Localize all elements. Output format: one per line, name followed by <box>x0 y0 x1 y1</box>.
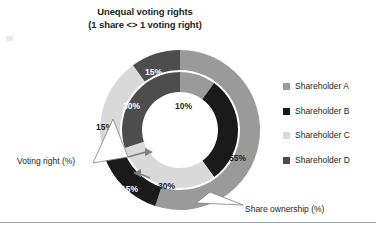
callout-share-ownership: Share ownership (%) <box>245 204 324 214</box>
legend-swatch-icon <box>283 157 290 164</box>
chart-title: Unequal voting rights (1 share <> 1 voti… <box>0 6 290 31</box>
legend-label: Shareholder B <box>295 107 349 116</box>
legend-swatch-icon <box>283 108 290 115</box>
legend-swatch-icon <box>283 132 290 139</box>
page-artifact <box>6 36 13 41</box>
legend-swatch-icon <box>283 83 290 90</box>
legend-label: Shareholder A <box>295 82 349 91</box>
legend-item-shareholder-d[interactable]: Shareholder D <box>283 156 350 165</box>
legend-label: Shareholder D <box>295 156 350 165</box>
footer-divider <box>0 222 376 223</box>
chart-figure: Unequal voting rights (1 share <> 1 voti… <box>0 0 376 228</box>
chart-title-line-2: (1 share <> 1 voting right) <box>0 19 290 32</box>
chart-legend: Shareholder A Shareholder B Shareholder … <box>283 82 350 165</box>
legend-item-shareholder-a[interactable]: Shareholder A <box>283 82 350 91</box>
double-donut-chart: 10% 30% 55% 30% 15% 15% 30% 15% <box>96 46 264 214</box>
legend-label: Shareholder C <box>295 131 350 140</box>
legend-item-shareholder-b[interactable]: Shareholder B <box>283 107 350 116</box>
callout-voting-right: Voting right (%) <box>17 156 75 166</box>
legend-item-shareholder-c[interactable]: Shareholder C <box>283 131 350 140</box>
donut-svg <box>96 46 264 214</box>
chart-title-line-1: Unequal voting rights <box>0 6 290 19</box>
